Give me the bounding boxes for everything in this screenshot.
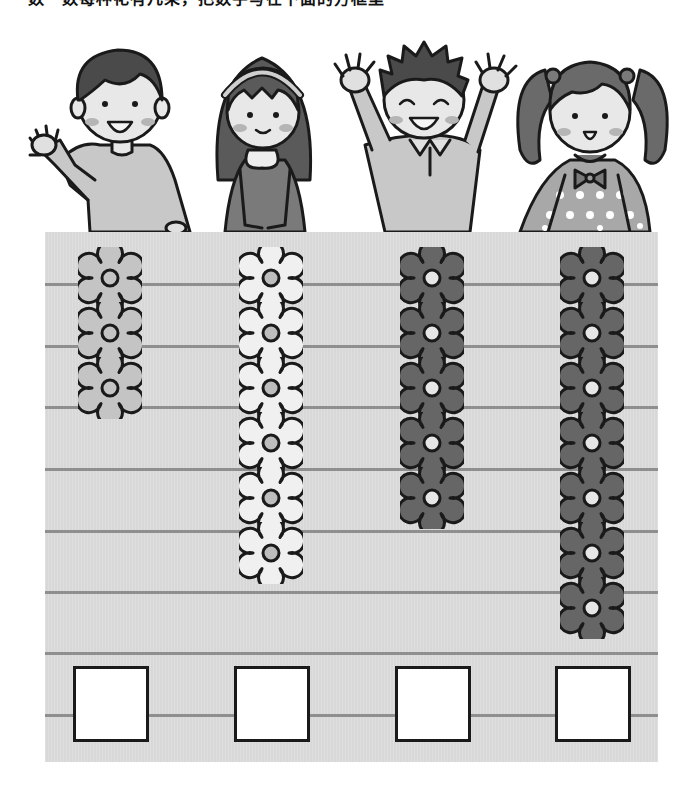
- flower-icon: [239, 467, 303, 529]
- answer-box-1[interactable]: [73, 666, 149, 742]
- flower-icon: [239, 302, 303, 364]
- girl-pigtails-figure: [518, 62, 667, 232]
- flower-icon: [400, 302, 464, 364]
- children-illustration: [0, 30, 695, 240]
- flower-icon: [78, 357, 142, 419]
- flower-icon: [560, 357, 624, 419]
- counting-panel: [45, 232, 658, 762]
- boy-waving-figure: [30, 50, 190, 234]
- flower-icon: [400, 412, 464, 474]
- rule-line: [45, 652, 658, 655]
- flower-icon: [560, 302, 624, 364]
- flower-icon: [239, 522, 303, 584]
- flower-icon: [560, 577, 624, 639]
- flower-icon: [400, 247, 464, 309]
- answer-box-2[interactable]: [234, 666, 310, 742]
- instruction-text: 数一数每种花有几朵，把数字写在下面的方框里: [28, 0, 668, 7]
- flower-icon: [78, 247, 142, 309]
- flower-icon: [239, 412, 303, 474]
- flower-icon: [239, 247, 303, 309]
- flower-icon: [400, 357, 464, 419]
- answer-box-4[interactable]: [555, 666, 631, 742]
- flower-icon: [400, 467, 464, 529]
- flower-icon: [78, 302, 142, 364]
- boy-arms-up-figure: [335, 42, 516, 232]
- answer-box-3[interactable]: [395, 666, 471, 742]
- flower-icon: [239, 357, 303, 419]
- flower-icon: [560, 522, 624, 584]
- flower-icon: [560, 247, 624, 309]
- girl-headband-figure: [217, 58, 311, 232]
- flower-icon: [560, 467, 624, 529]
- flower-icon: [560, 412, 624, 474]
